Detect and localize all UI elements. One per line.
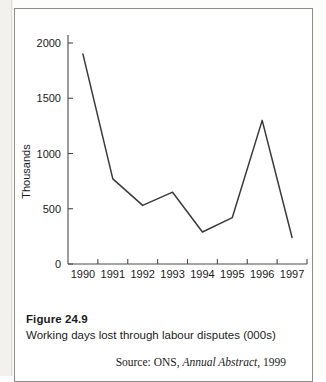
y-axis-tick-label: 500 [43, 203, 61, 215]
x-axis-tick-label: 1995 [220, 268, 244, 280]
y-axis-tick-label: 1000 [37, 148, 61, 160]
x-axis-tick-label: 1990 [71, 268, 95, 280]
x-axis-tick-label: 1993 [160, 268, 184, 280]
source-prefix: Source: ONS, [116, 356, 183, 368]
data-series-line [83, 54, 292, 237]
page-gutter-artifact [0, 0, 13, 376]
y-axis-tick-label: 1500 [37, 92, 61, 104]
x-axis-tick-label: 1996 [250, 268, 274, 280]
y-axis-title: Thousands [20, 144, 32, 199]
figure-title: Working days lost through labour dispute… [26, 327, 304, 343]
source-suffix: , 1999 [257, 356, 286, 368]
x-axis-tick-label: 1992 [130, 268, 154, 280]
figure-source: Source: ONS, Annual Abstract, 1999 [0, 356, 300, 368]
chart-canvas: 0500100015002000199019911992199319941995… [14, 8, 313, 300]
y-axis-tick-label: 2000 [37, 37, 61, 49]
source-work-title: Annual Abstract [182, 356, 257, 368]
x-axis-tick-label: 1997 [280, 268, 304, 280]
x-axis-tick-label: 1994 [190, 268, 214, 280]
line-chart: 0500100015002000199019911992199319941995… [14, 8, 313, 300]
figure-number: Figure 24.9 [26, 312, 304, 326]
gutter-edge-line [11, 0, 12, 376]
figure-caption: Figure 24.9 Working days lost through la… [26, 312, 304, 343]
x-axis-tick-label: 1991 [101, 268, 125, 280]
y-axis-tick-label: 0 [55, 258, 61, 270]
